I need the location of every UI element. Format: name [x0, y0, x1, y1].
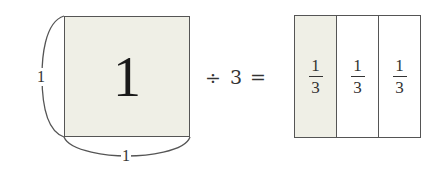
equals-sign: = — [250, 66, 266, 88]
unit-square-value: 1 — [64, 16, 190, 137]
denominator: 3 — [395, 79, 404, 96]
fraction-bar — [351, 76, 365, 77]
numerator: 1 — [311, 57, 320, 74]
fraction: 1 3 — [309, 57, 323, 96]
numerator: 1 — [395, 57, 404, 74]
fraction-bar — [393, 76, 407, 77]
fraction: 1 3 — [393, 57, 407, 96]
side-label-bottom: 1 — [121, 147, 131, 165]
side-label-left: 1 — [36, 68, 46, 86]
fraction: 1 3 — [351, 57, 365, 96]
divided-parts: 1 3 1 3 1 3 — [294, 15, 421, 138]
divisor: 3 — [230, 66, 242, 88]
fraction-bar — [309, 76, 323, 77]
part-1: 1 3 — [295, 16, 336, 137]
numerator: 1 — [353, 57, 362, 74]
part-2: 1 3 — [336, 16, 378, 137]
divide-operator: ÷ — [205, 66, 221, 88]
part-3: 1 3 — [378, 16, 420, 137]
denominator: 3 — [353, 79, 362, 96]
denominator: 3 — [311, 79, 320, 96]
